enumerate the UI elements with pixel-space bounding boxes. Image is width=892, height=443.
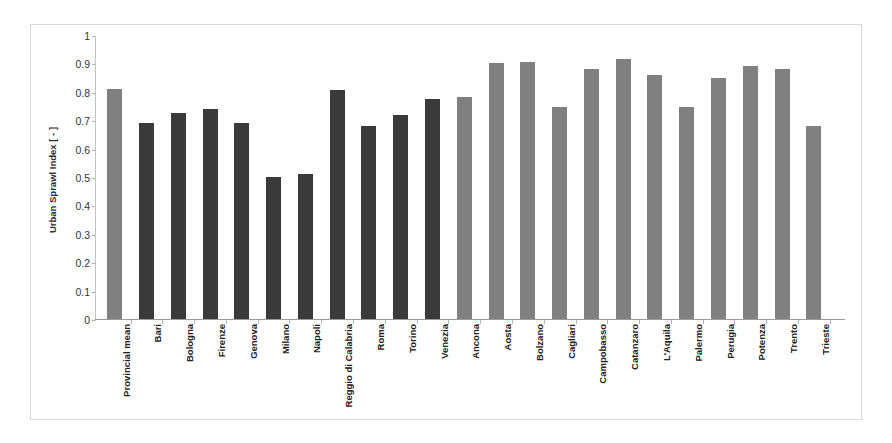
plot-area xyxy=(95,36,845,320)
y-tick-label: 0 xyxy=(58,314,90,326)
bar xyxy=(139,123,154,319)
x-tick-label: Bologna xyxy=(183,324,197,420)
x-tick-label: Trento xyxy=(787,324,801,420)
y-axis-title-label: Urban Sprawl Index [ - ] xyxy=(47,127,58,233)
bar xyxy=(775,69,790,319)
bar xyxy=(107,89,122,319)
bar xyxy=(743,66,758,319)
bar xyxy=(584,69,599,319)
bar xyxy=(298,174,313,319)
y-tick-label: 0.5 xyxy=(58,172,90,184)
bar xyxy=(711,78,726,319)
y-tick-label: 0.6 xyxy=(58,144,90,156)
x-tick-label: Catanzaro xyxy=(628,324,642,420)
x-tick-label: Cagliari xyxy=(565,324,579,420)
x-axis-line xyxy=(95,319,845,320)
x-tick-label: Bari xyxy=(151,324,165,420)
bar xyxy=(489,63,504,319)
x-tick-label: Trieste xyxy=(819,324,833,420)
bar xyxy=(266,177,281,319)
x-tick-label: Ancona xyxy=(469,324,483,420)
bar xyxy=(806,126,821,319)
x-axis-tick-labels: Provincial meanBariBolognaFirenzeGenovaM… xyxy=(95,324,845,420)
y-axis-tick-labels: 00.10.20.30.40.50.60.70.80.91 xyxy=(58,36,90,320)
bar xyxy=(234,123,249,319)
bar xyxy=(425,99,440,319)
x-tick-label: Perugia xyxy=(724,324,738,420)
x-tick-label: Firenze xyxy=(215,324,229,420)
bar xyxy=(679,107,694,319)
bar xyxy=(393,115,408,319)
x-tick-label: Genova xyxy=(247,324,261,420)
bar xyxy=(330,90,345,319)
x-tick-label: Torino xyxy=(406,324,420,420)
y-tick-label: 0.1 xyxy=(58,286,90,298)
x-tick-label: L'Aquila xyxy=(660,324,674,420)
bar xyxy=(552,107,567,319)
x-tick-label: Reggio di Calabria xyxy=(342,324,356,420)
bar xyxy=(457,97,472,319)
x-tick-label: Palermo xyxy=(692,324,706,420)
bar xyxy=(520,62,535,319)
y-tick-label: 1 xyxy=(58,30,90,42)
y-tick-label: 0.2 xyxy=(58,257,90,269)
bar xyxy=(647,75,662,319)
x-tick-label: Napoli xyxy=(310,324,324,420)
bar xyxy=(361,126,376,319)
x-tick-label: Venezia xyxy=(438,324,452,420)
x-tick-label: Roma xyxy=(374,324,388,420)
x-tick-label: Campobasso xyxy=(596,324,610,420)
y-axis-line xyxy=(95,36,96,321)
x-tick-label: Aosta xyxy=(501,324,515,420)
bar xyxy=(203,109,218,319)
y-tick-label: 0.9 xyxy=(58,58,90,70)
y-tick-label: 0.3 xyxy=(58,229,90,241)
y-tick-label: 0.4 xyxy=(58,200,90,212)
x-tick-label: Bolzano xyxy=(533,324,547,420)
bar xyxy=(616,59,631,319)
x-tick-label: Potenza xyxy=(755,324,769,420)
x-tick-label: Provincial mean xyxy=(120,324,134,420)
y-tick-label: 0.7 xyxy=(58,115,90,127)
y-tick-label: 0.8 xyxy=(58,87,90,99)
x-tick-label: Milano xyxy=(279,324,293,420)
bar xyxy=(171,113,186,319)
chart-figure: Urban Sprawl Index [ - ] 00.10.20.30.40.… xyxy=(0,0,892,443)
